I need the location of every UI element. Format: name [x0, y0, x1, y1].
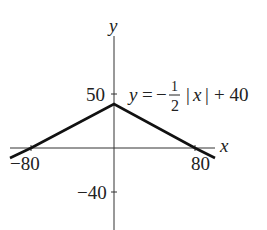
y-tick-label-50: 50 — [86, 84, 105, 105]
equation-frac-den: 2 — [171, 97, 179, 114]
y-axis-label: y — [107, 15, 118, 36]
equation-abs-left: | — [186, 84, 190, 105]
equation-rest: + 40 — [214, 84, 248, 105]
x-tick-label-80: 80 — [191, 153, 210, 174]
equation-lhs: y — [127, 84, 138, 105]
x-axis-label: x — [219, 135, 229, 156]
equation-frac-num: 1 — [171, 79, 178, 94]
equation-label: y = − 1 2 | x | + 40 — [127, 79, 248, 114]
equation-minus: − — [156, 84, 167, 105]
y-tick-label-neg40: −40 — [77, 182, 107, 203]
absolute-value-graph: y x 50 −40 −80 80 y = − 1 2 | x | + 40 — [0, 0, 267, 230]
equation-var: x — [192, 84, 202, 105]
equation-abs-right: | — [205, 84, 209, 105]
function-line — [10, 104, 215, 158]
x-tick-label-neg80: −80 — [10, 153, 40, 174]
equation-equals: = — [142, 84, 153, 105]
